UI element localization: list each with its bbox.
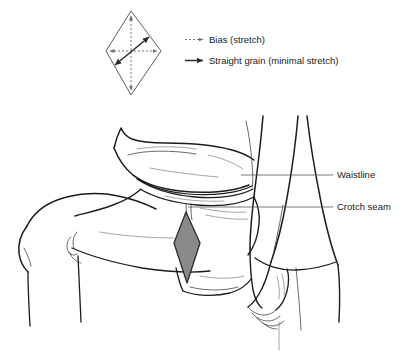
knee-crease [24, 248, 31, 266]
finger-ring [257, 318, 284, 326]
finger-2 [73, 232, 77, 248]
trouser-shade-lower [200, 276, 244, 278]
calf-inner-edge [78, 256, 81, 322]
right-leg-outer [338, 265, 340, 322]
right-leg-crotch-fold [255, 258, 336, 270]
shirt-fold-1 [128, 151, 196, 155]
right-arm [248, 116, 298, 329]
left-hand-on-knee [67, 232, 81, 263]
inseam-sweep [183, 279, 251, 295]
shirt-hem-outline [114, 128, 254, 160]
hand-back [248, 262, 271, 307]
legend: Bias (stretch) Straight grain (minimal s… [185, 34, 338, 66]
shirt-crease-2 [208, 155, 243, 169]
legend-label-straight-grain: Straight grain (minimal stretch) [209, 55, 338, 66]
inseam-fold [190, 287, 238, 290]
arm-inner-contour [250, 116, 263, 248]
shirt-crease-1 [137, 147, 196, 149]
shin-left-edge [28, 272, 30, 326]
trouser-crease-right-1 [200, 208, 246, 212]
hand-tendon-1 [277, 276, 279, 299]
hand-tendon-2 [282, 274, 284, 295]
shirt-crease-3 [150, 168, 218, 177]
shirt-lower-edge [114, 148, 249, 192]
finger-1 [67, 237, 77, 255]
legend-label-bias: Bias (stretch) [209, 34, 265, 45]
right-hip-contour [307, 116, 338, 265]
trouser-fly-seam-2 [191, 204, 192, 220]
illustration-page: Bias (stretch) Straight grain (minimal s… [0, 0, 405, 353]
legend-item-straight-grain: Straight grain (minimal stretch) [185, 55, 338, 66]
gusset-grain-diamond [106, 11, 161, 95]
legend-item-bias: Bias (stretch) [185, 34, 265, 45]
seated-figure-illustration [19, 116, 340, 350]
right-leg-inner [296, 268, 301, 330]
callout-waistline: Waistline [241, 169, 375, 180]
arm-outer-contour [271, 116, 298, 262]
thigh-shading-1 [100, 232, 174, 238]
shirt-side-seam [246, 121, 253, 187]
right-hip-leg [255, 116, 340, 330]
hand-thumb-side [250, 248, 262, 308]
diamond-outline [106, 11, 161, 95]
trouser-crease-right-2 [206, 215, 248, 219]
finger-3 [69, 252, 81, 263]
callout-label-waistline: Waistline [337, 169, 375, 180]
knee-front-contour [19, 226, 28, 272]
finger-middle [252, 313, 280, 321]
torso-shirt [114, 121, 254, 195]
callout-label-crotch-seam: Crotch seam [337, 201, 391, 212]
callout-crotch-seam: Crotch seam [188, 201, 391, 212]
thigh-top-contour [27, 194, 156, 226]
